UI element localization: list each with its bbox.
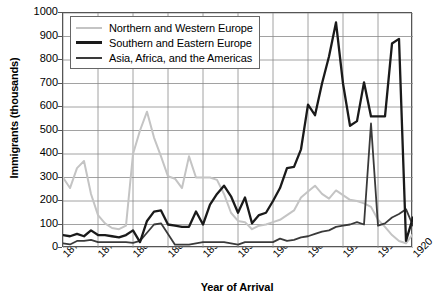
legend-label-series1: Northern and Western Europe: [109, 22, 253, 34]
legend-swatch-series1: [76, 27, 102, 29]
y-axis-title: Immigrants (thousands): [8, 18, 20, 218]
y-tick-200: 200: [0, 194, 58, 205]
legend-item-southern-eastern-europe: Southern and Eastern Europe: [76, 35, 253, 50]
x-axis-title: Year of Arrival: [62, 281, 412, 293]
x-tick-1920: 1920: [410, 235, 434, 259]
y-tick-0: 0: [0, 241, 58, 252]
y-tick-1000: 1000: [0, 6, 58, 17]
chart-legend: Northern and Western Europe Southern and…: [70, 16, 260, 69]
legend-label-series2: Southern and Eastern Europe: [109, 37, 252, 49]
legend-label-series3: Asia, Africa, and the Americas: [109, 52, 252, 64]
series-line-3: [63, 123, 413, 244]
y-tick-700: 700: [0, 77, 58, 88]
legend-swatch-series2: [76, 41, 102, 44]
y-tick-400: 400: [0, 147, 58, 158]
legend-swatch-series3: [76, 57, 102, 59]
legend-item-northern-western-europe: Northern and Western Europe: [76, 20, 253, 35]
legend-item-asia-africa-americas: Asia, Africa, and the Americas: [76, 50, 253, 65]
y-tick-600: 600: [0, 100, 58, 111]
y-tick-900: 900: [0, 30, 58, 41]
y-tick-300: 300: [0, 171, 58, 182]
y-tick-500: 500: [0, 124, 58, 135]
y-tick-800: 800: [0, 53, 58, 64]
y-tick-100: 100: [0, 218, 58, 229]
